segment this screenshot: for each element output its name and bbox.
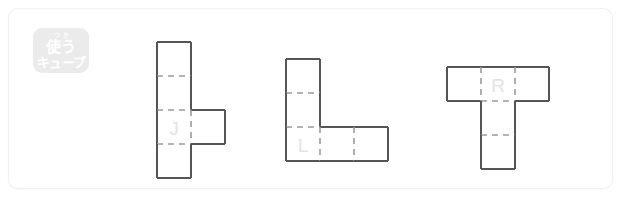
cube-net-r: R [444,64,552,172]
net-label: J [169,118,179,139]
badge-line-1: 使う [46,39,76,54]
cube-badge: つか 使う キューブ [33,28,89,73]
badge-line-2: キューブ [37,56,86,69]
net-label: R [491,75,505,96]
cube-net-l: L [283,56,391,164]
net-label: L [298,135,309,156]
cube-net-j: J [154,39,228,181]
cube-nets-card: つか 使う キューブ J L R [8,8,613,189]
